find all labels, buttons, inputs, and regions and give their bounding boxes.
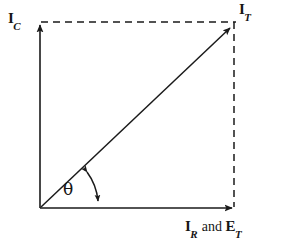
label-total-current: IT — [239, 2, 252, 20]
label-total-voltage-subscript: T — [235, 228, 242, 240]
label-total-current-subscript: T — [244, 11, 251, 23]
label-capacitive-current: IC — [8, 11, 21, 29]
label-total-voltage-symbol: E — [225, 218, 235, 234]
label-capacitive-current-subscript: C — [13, 20, 20, 32]
label-phase-angle-theta: θ — [63, 181, 73, 198]
angle-arc-double-arrow — [87, 172, 98, 201]
label-resistive-current-and-total-voltage: IR and ET — [185, 219, 242, 237]
label-conjunction: and — [198, 219, 225, 234]
label-resistive-current-subscript: R — [190, 228, 197, 240]
phasor-diagram — [0, 0, 289, 251]
